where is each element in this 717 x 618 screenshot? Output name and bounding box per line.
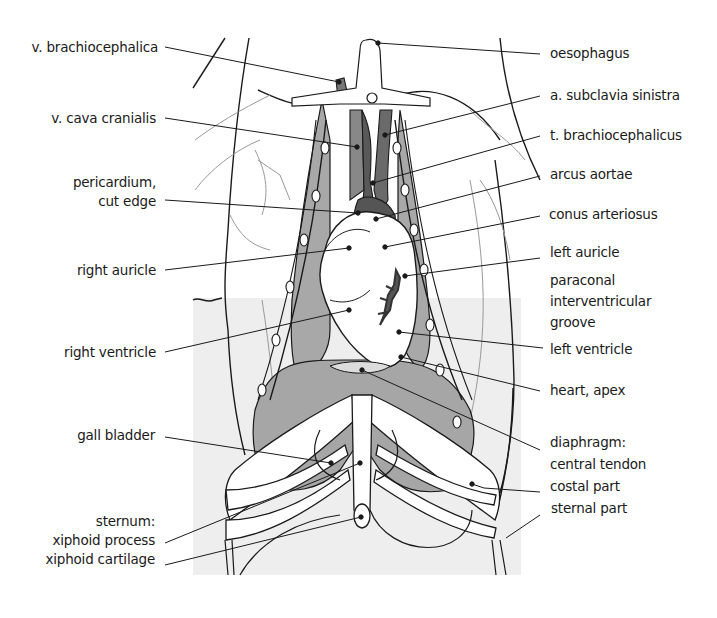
label-t-brachiocephalicus: t. brachiocephalicus [550, 126, 682, 145]
label-right-auricle: right auricle [0, 261, 156, 280]
label-conus-arteriosus: conus arteriosus [549, 205, 658, 224]
manubrium [292, 39, 430, 106]
label-v-cava-cranialis: v. cava cranialis [0, 109, 156, 128]
label-left-ventricle: left ventricle [550, 340, 632, 359]
label-pericardium-cut-edge: pericardium, cut edge [0, 173, 156, 211]
label-arcus-aortae: arcus aortae [550, 165, 632, 184]
label-v-brachiocephalica: v. brachiocephalica [0, 38, 158, 57]
label-oesophagus: oesophagus [550, 44, 629, 63]
label-a-subclavia-sinistra: a. subclavia sinistra [550, 86, 680, 105]
label-paraconal-interventricular-groove: paraconal interventricular groove [550, 270, 651, 333]
label-sternum: sternum: xiphoid process xiphoid cartila… [0, 512, 155, 569]
label-right-ventricle: right ventricle [0, 343, 156, 362]
label-left-auricle: left auricle [550, 243, 619, 262]
label-heart-apex: heart, apex [550, 381, 625, 400]
label-diaphragm: diaphragm: central tendon costal part st… [550, 431, 646, 519]
label-gall-bladder: gall bladder [0, 426, 155, 445]
